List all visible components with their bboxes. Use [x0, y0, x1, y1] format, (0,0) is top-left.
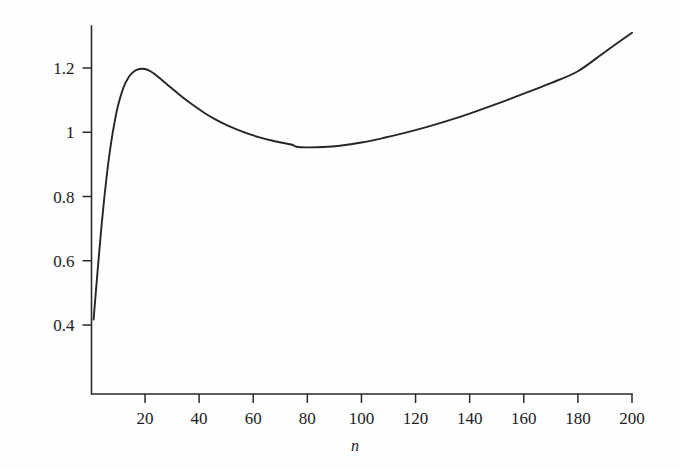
x-tick-label: 60	[245, 409, 262, 428]
chart-line-series	[94, 33, 632, 320]
axis-frame	[92, 26, 633, 394]
y-tick-label: 1	[66, 123, 75, 142]
x-tick-label: 40	[191, 409, 208, 428]
x-tick-label: 80	[299, 409, 316, 428]
x-tick-label: 100	[349, 409, 375, 428]
x-tick-label: 160	[511, 409, 537, 428]
x-tick-label: 200	[619, 409, 645, 428]
chart-axes	[92, 26, 633, 394]
x-axis-ticks: 20406080100120140160180200	[137, 394, 645, 428]
chart-figure: 0.40.60.811.2 20406080100120140160180200…	[0, 0, 682, 469]
y-axis-ticks: 0.40.60.811.2	[53, 59, 91, 335]
x-tick-label: 20	[137, 409, 154, 428]
chart-series-group	[94, 33, 632, 320]
y-tick-label: 1.2	[53, 59, 74, 78]
x-tick-label: 120	[403, 409, 429, 428]
line-chart: 0.40.60.811.2 20406080100120140160180200…	[0, 0, 682, 469]
y-tick-label: 0.8	[53, 188, 74, 207]
x-axis-title: n	[351, 437, 359, 454]
y-tick-label: 0.4	[53, 316, 75, 335]
y-tick-label: 0.6	[53, 252, 74, 271]
x-tick-label: 180	[565, 409, 591, 428]
x-tick-label: 140	[457, 409, 483, 428]
